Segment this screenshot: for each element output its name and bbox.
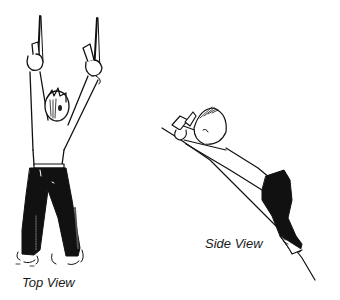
illustration-canvas: Top View Side View bbox=[0, 0, 340, 300]
top-view-caption: Top View bbox=[22, 275, 75, 290]
top-view-head bbox=[45, 88, 69, 121]
side-view-figure bbox=[162, 107, 315, 280]
top-view-figure bbox=[16, 16, 102, 266]
top-view-pants bbox=[22, 168, 80, 256]
exercise-illustration bbox=[0, 0, 340, 300]
incline-rope bbox=[162, 128, 315, 280]
side-view-caption: Side View bbox=[205, 236, 263, 251]
side-view-pants bbox=[262, 170, 302, 252]
side-view-head bbox=[194, 107, 226, 144]
